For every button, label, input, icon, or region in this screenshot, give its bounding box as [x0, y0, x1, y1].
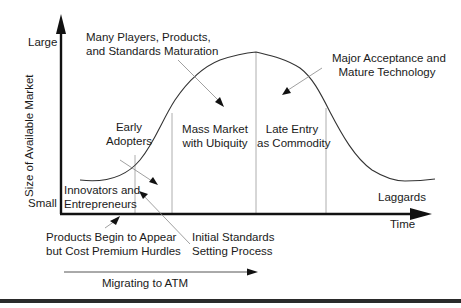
annotation-products-begin-line1: Products Begin to Appear [46, 230, 171, 244]
phase-mass-market: Mass Market with Ubiquity [180, 122, 250, 150]
arrow-major-acceptance-head [282, 87, 291, 95]
annotation-initial-standards: Initial Standards Setting Process [192, 230, 272, 258]
bottom-border-bar [0, 299, 461, 303]
y-top-label: Large [28, 35, 57, 49]
phase-late-entry: Late Entry as Commodity [257, 122, 327, 150]
adoption-curve-diagram [0, 0, 461, 308]
phase-innovators: Innovators and Entrepreneurs [64, 183, 134, 211]
phase-mass-market-line2: with Ubiquity [180, 136, 250, 150]
annotation-initial-standards-line1: Initial Standards [192, 230, 272, 244]
phase-late-entry-line1: Late Entry [257, 122, 327, 136]
x-axis-label: Time [390, 217, 415, 231]
annotation-initial-standards-line2: Setting Process [192, 244, 272, 258]
y-axis-label: Size of Available Market [23, 77, 35, 197]
y-axis-arrowhead [56, 14, 66, 34]
phase-early-adopters-line2: Adopters [104, 134, 154, 148]
annotation-many-players-line1: Many Players, Products, [86, 30, 206, 44]
arrow-initial-standards-head [139, 191, 148, 199]
phase-innovators-line2: Entrepreneurs [64, 197, 134, 211]
annotation-products-begin-line2: but Cost Premium Hurdles [46, 244, 171, 258]
migration-arrow-head [247, 269, 258, 276]
y-bottom-label: Small [28, 196, 57, 210]
annotation-major-acceptance-line2: Mature Technology [332, 65, 442, 79]
phase-early-adopters: Early Adopters [104, 120, 154, 148]
phase-late-entry-line2: as Commodity [257, 136, 327, 150]
migration-label: Migrating to ATM [100, 276, 190, 290]
phase-laggards-line1: Laggards [378, 190, 426, 204]
arrow-early-adopters-head [149, 177, 158, 185]
annotation-major-acceptance-line1: Major Acceptance and [332, 51, 442, 65]
phase-innovators-line1: Innovators and [64, 183, 134, 197]
phase-early-adopters-line1: Early [104, 120, 154, 134]
annotation-many-players: Many Players, Products, and Standards Ma… [86, 30, 206, 58]
annotation-many-players-line2: and Standards Maturation [86, 44, 206, 58]
annotation-major-acceptance: Major Acceptance and Mature Technology [332, 51, 442, 79]
phase-mass-market-line1: Mass Market [180, 122, 250, 136]
arrow-many-players [178, 60, 222, 104]
phase-laggards: Laggards [378, 190, 426, 204]
pointer-arrows [105, 60, 322, 244]
annotation-products-begin: Products Begin to Appear but Cost Premiu… [46, 230, 171, 258]
